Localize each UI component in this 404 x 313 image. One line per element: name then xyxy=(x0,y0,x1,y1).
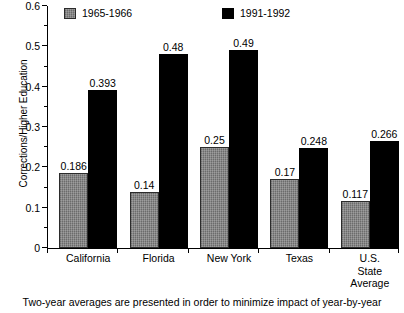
legend-entry-1991-1992: 1991-1992 xyxy=(222,7,290,19)
x-axis-tick xyxy=(258,249,259,253)
y-axis-major-tick xyxy=(42,166,47,167)
bar-value-label: 0.248 xyxy=(301,135,327,147)
legend-swatch-icon xyxy=(64,8,76,19)
bar-value-label: 0.49 xyxy=(233,37,253,49)
legend-label: 1965-1966 xyxy=(82,7,132,19)
bar-1991-1992-Texas xyxy=(299,148,328,248)
x-axis-category-label: New York xyxy=(207,252,251,265)
y-axis-tick-label: 0.2 xyxy=(25,161,40,173)
bar-chart-figure: Corrections/Higher Education 00.10.20.30… xyxy=(0,0,404,313)
y-axis-major-tick xyxy=(42,247,47,248)
y-axis-tick-label: 0.4 xyxy=(25,81,40,93)
y-axis-major-tick xyxy=(42,207,47,208)
y-axis-major-tick xyxy=(42,86,47,87)
y-axis-major-tick xyxy=(42,45,47,46)
y-axis-minor-tick xyxy=(44,106,47,107)
x-axis-line xyxy=(47,248,399,249)
y-axis-tick-label: 0.3 xyxy=(25,121,40,133)
x-axis-tick xyxy=(117,249,118,253)
y-axis-minor-tick xyxy=(44,187,47,188)
chart-legend: 1965-19661991-1992 xyxy=(47,6,399,26)
bar-value-label: 0.266 xyxy=(371,128,397,140)
bar-1965-1966-Florida xyxy=(130,192,159,248)
y-axis-minor-tick xyxy=(44,227,47,228)
bar-1965-1966-California xyxy=(59,173,88,248)
legend-label: 1991-1992 xyxy=(240,7,290,19)
legend-swatch-icon xyxy=(222,8,234,19)
bar-1965-1966-New York xyxy=(200,147,229,248)
bar-1991-1992-New York xyxy=(229,50,258,248)
bar-1965-1966-U.S.-State-Average xyxy=(341,201,370,248)
y-axis-tick-label: 0.1 xyxy=(25,202,40,214)
x-axis-category-label: Texas xyxy=(286,252,313,265)
bar-1991-1992-California xyxy=(88,90,117,249)
x-axis-tick xyxy=(47,249,48,253)
plot-area: 00.10.20.30.40.50.6 0.1860.3930.140.480.… xyxy=(47,6,399,249)
bar-value-label: 0.117 xyxy=(343,188,369,200)
y-axis-minor-tick xyxy=(44,66,47,67)
x-axis-category-label: Florida xyxy=(143,252,175,265)
bar-1991-1992-U.S.-State-Average xyxy=(370,141,399,248)
x-axis-category-label: California xyxy=(66,252,110,265)
y-axis-tick-label: 0.6 xyxy=(25,0,40,12)
figure-caption: Two-year averages are presented in order… xyxy=(0,296,404,308)
x-axis-category-label: U.S.StateAverage xyxy=(350,252,389,290)
x-axis-tick xyxy=(329,249,330,253)
bar-value-label: 0.17 xyxy=(275,166,295,178)
bar-value-label: 0.393 xyxy=(90,77,116,89)
y-axis-tick-label: 0.5 xyxy=(25,40,40,52)
bar-value-label: 0.14 xyxy=(134,179,154,191)
bar-1965-1966-Texas xyxy=(270,179,299,248)
x-axis-tick xyxy=(398,249,399,253)
bar-value-label: 0.48 xyxy=(163,41,183,53)
y-axis-major-tick xyxy=(42,126,47,127)
y-axis-line xyxy=(47,6,48,249)
bar-value-label: 0.186 xyxy=(61,160,87,172)
bar-1991-1992-Florida xyxy=(159,54,188,248)
bar-value-label: 0.25 xyxy=(204,134,224,146)
x-axis-tick xyxy=(188,249,189,253)
y-axis-minor-tick xyxy=(44,146,47,147)
y-axis-tick-label: 0 xyxy=(34,242,40,254)
legend-entry-1965-1966: 1965-1966 xyxy=(64,7,132,19)
